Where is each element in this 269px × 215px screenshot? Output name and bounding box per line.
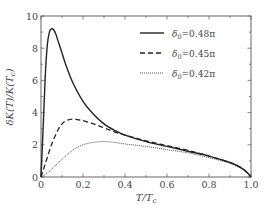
y-tick-label: 4 bbox=[32, 107, 38, 118]
y-tick-label: 0 bbox=[32, 172, 38, 183]
x-tick-label: 0 bbox=[38, 179, 44, 190]
x-tick-label: 0.2 bbox=[75, 179, 90, 190]
x-tick-label: 0.4 bbox=[117, 179, 132, 190]
y-tick-label: 2 bbox=[32, 139, 38, 150]
x-tick-label: 1.0 bbox=[243, 179, 258, 190]
y-tick-label: 10 bbox=[26, 11, 38, 22]
y-tick-label: 6 bbox=[32, 75, 38, 86]
x-tick-label: 0.6 bbox=[159, 179, 174, 190]
chart: 00.20.40.60.81.00246810 δ0=0.48πδ0=0.45π… bbox=[0, 0, 269, 215]
y-tick-label: 8 bbox=[32, 43, 38, 54]
x-tick-label: 0.8 bbox=[201, 179, 216, 190]
